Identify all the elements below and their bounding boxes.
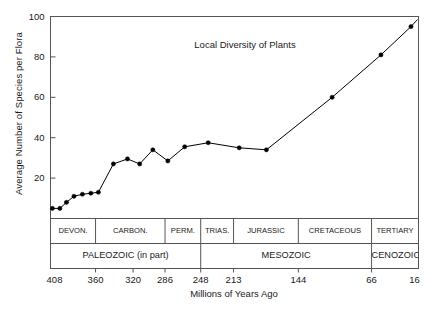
data-point-marker xyxy=(89,191,93,195)
y-axis-ticks xyxy=(51,17,56,179)
period-row-border xyxy=(51,219,419,244)
data-point-marker xyxy=(237,146,241,150)
data-point-marker xyxy=(379,53,383,57)
data-series-line xyxy=(52,20,417,209)
data-point-markers xyxy=(50,25,413,211)
data-point-marker xyxy=(125,157,129,161)
data-point-marker xyxy=(58,206,62,210)
data-point-marker xyxy=(206,141,210,145)
data-point-marker xyxy=(330,95,334,99)
data-point-marker xyxy=(183,145,187,149)
data-point-marker xyxy=(166,159,170,163)
data-point-marker xyxy=(409,25,413,29)
plot-frame xyxy=(51,17,419,269)
data-point-marker xyxy=(264,148,268,152)
x-axis-ticks xyxy=(96,269,372,273)
data-point-marker xyxy=(138,162,142,166)
data-point-marker xyxy=(64,200,68,204)
era-row-border xyxy=(51,244,419,269)
series-line xyxy=(52,27,411,209)
data-point-marker xyxy=(96,190,100,194)
plot-border xyxy=(51,17,419,219)
data-point-marker xyxy=(151,148,155,152)
data-point-marker xyxy=(111,162,115,166)
plot-area xyxy=(0,0,440,309)
data-point-marker xyxy=(72,194,76,198)
data-point-marker xyxy=(50,206,54,210)
data-point-marker xyxy=(80,192,84,196)
chart-figure: Average Number of Species per Flora Mill… xyxy=(0,0,440,309)
